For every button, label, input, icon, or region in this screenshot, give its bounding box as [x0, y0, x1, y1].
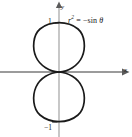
y-tick-label-negative-one: −1 [44, 124, 52, 132]
equation-sine-function: sin [88, 16, 98, 25]
plot-canvas [0, 0, 132, 137]
equation-theta: θ [99, 16, 103, 25]
y-tick-label-positive-one: 1 [48, 18, 52, 26]
axis-label-x: x [124, 67, 127, 74]
polar-curve-figure: x y 1 −1 r2 = −sin θ [0, 0, 132, 137]
axis-label-y: y [61, 4, 64, 11]
equation-equals: = [74, 16, 83, 25]
equation-annotation: r2 = −sin θ [68, 15, 103, 25]
